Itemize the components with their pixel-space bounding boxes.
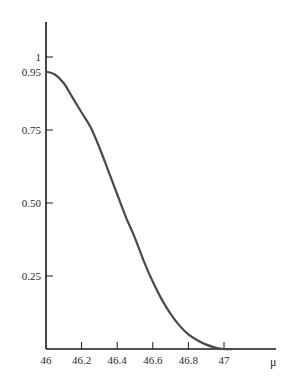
x-tick-label: 46.4 [108,354,128,366]
y-ticks: 0.250.500.750.951 [22,51,53,282]
y-tick-label: 0.95 [22,66,42,78]
x-axis-label: μ [270,355,276,369]
power-curve-chart: 4646.246.446.646.847 0.250.500.750.951 μ [0,0,294,388]
x-tick-label: 46.8 [179,354,199,366]
x-tick-label: 46.2 [72,354,91,366]
x-tick-label: 46.6 [143,354,163,366]
x-ticks: 4646.246.446.646.847 [41,342,231,366]
power-curve-line [46,72,233,350]
x-tick-label: 46 [41,354,53,366]
y-tick-label: 1 [36,51,42,63]
y-tick-label: 0.25 [22,270,42,282]
x-tick-label: 47 [219,354,231,366]
y-tick-label: 0.75 [22,124,42,136]
y-tick-label: 0.50 [22,197,42,209]
